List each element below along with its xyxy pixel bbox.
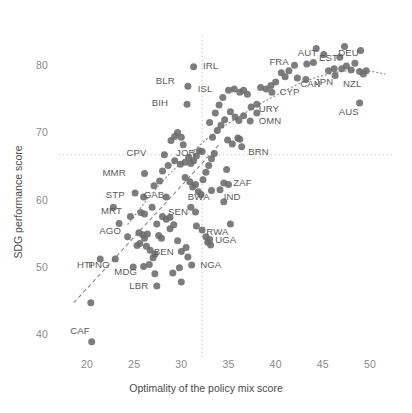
point-label-bih: BIH xyxy=(152,97,168,108)
data-point xyxy=(200,176,207,183)
point-label-mdg: MDG xyxy=(114,266,137,277)
data-point-cpv xyxy=(161,151,168,158)
x-tick-label: 35 xyxy=(209,358,249,370)
data-point xyxy=(87,299,94,306)
x-tick-label: 50 xyxy=(350,358,390,370)
y-tick-label: 60 xyxy=(18,194,48,206)
data-point-blr xyxy=(184,83,191,90)
data-point xyxy=(212,110,219,117)
point-label-irl: IRL xyxy=(203,60,218,71)
point-label-uga: UGA xyxy=(215,234,236,245)
data-point-bih xyxy=(184,101,191,108)
data-point xyxy=(238,143,245,150)
data-point xyxy=(169,270,176,277)
data-point-mdg xyxy=(151,270,158,277)
data-point xyxy=(229,141,236,148)
data-point xyxy=(219,94,226,101)
data-point xyxy=(351,60,358,67)
point-label-omn: OMN xyxy=(259,115,282,126)
data-point xyxy=(348,67,355,74)
data-point xyxy=(159,167,166,174)
data-point-isl xyxy=(225,87,232,94)
point-label-ago: AGO xyxy=(99,225,121,236)
data-point xyxy=(176,264,183,271)
point-label-ben: BEN xyxy=(154,246,174,257)
data-point xyxy=(132,190,139,197)
data-point xyxy=(223,166,230,173)
data-point-irl xyxy=(190,63,197,70)
point-label-isl: ISL xyxy=(198,83,213,94)
data-point-png xyxy=(112,256,119,263)
data-point xyxy=(199,227,206,234)
data-point-ind xyxy=(217,186,224,193)
point-label-png: PNG xyxy=(89,259,110,270)
data-point xyxy=(221,116,228,123)
point-label-deu: DEU xyxy=(338,47,359,58)
data-point-uga xyxy=(206,236,213,243)
point-label-nzl: NZL xyxy=(343,78,361,89)
x-tick-label: 30 xyxy=(161,358,201,370)
data-point-nzl xyxy=(360,71,367,78)
x-tick-label: 45 xyxy=(303,358,343,370)
data-point xyxy=(331,65,338,72)
data-point xyxy=(184,254,191,261)
y-tick-label: 70 xyxy=(18,126,48,138)
data-point-ago xyxy=(135,229,142,236)
point-label-jor: JOR xyxy=(176,147,196,158)
data-point xyxy=(178,278,185,285)
data-point xyxy=(136,240,143,247)
data-point-omn xyxy=(247,118,254,125)
point-label-fra: FRA xyxy=(269,56,289,67)
data-point xyxy=(285,67,292,74)
point-label-blr: BLR xyxy=(156,75,175,86)
data-point-mrt xyxy=(137,209,144,216)
point-label-est: EST xyxy=(319,52,338,63)
data-point xyxy=(291,62,298,69)
data-point-nga xyxy=(188,262,195,269)
y-tick-label: 40 xyxy=(18,328,48,340)
data-point-lbr xyxy=(153,282,160,289)
data-point-cyp xyxy=(268,89,275,96)
data-point-fra xyxy=(303,61,310,68)
data-point xyxy=(127,213,134,220)
point-label-bwa: BWA xyxy=(188,191,210,202)
point-label-stp: STP xyxy=(106,189,125,200)
point-label-brn: BRN xyxy=(248,146,269,157)
point-label-cyp: CYP xyxy=(279,86,299,97)
data-point xyxy=(149,204,156,211)
x-tick-label: 20 xyxy=(67,358,107,370)
data-point-zaf xyxy=(220,180,227,187)
data-point xyxy=(216,102,223,109)
data-point xyxy=(124,233,131,240)
data-point xyxy=(153,221,160,228)
data-point-jor xyxy=(199,148,206,155)
point-label-mmr: MMR xyxy=(102,167,125,178)
data-point xyxy=(310,59,317,66)
data-point-caf xyxy=(88,338,95,345)
point-label-mrt: MRT xyxy=(101,205,122,216)
data-point xyxy=(244,91,251,98)
data-point-sen xyxy=(192,208,199,215)
point-label-ury: URY xyxy=(259,103,279,114)
point-label-aut: AUT xyxy=(298,47,318,58)
y-tick-label: 80 xyxy=(18,59,48,71)
data-point xyxy=(192,181,199,188)
data-point xyxy=(178,134,185,141)
x-axis-title: Optimality of the policy mix score xyxy=(0,382,412,394)
x-tick-label: 25 xyxy=(114,358,154,370)
data-point xyxy=(240,112,247,119)
point-label-gab: GAB xyxy=(144,189,165,200)
point-label-can: CAN xyxy=(300,78,321,89)
point-label-zaf: ZAF xyxy=(233,177,251,188)
data-point xyxy=(193,223,200,230)
point-label-nga: NGA xyxy=(200,259,221,270)
data-point-brn xyxy=(236,136,243,143)
point-label-lbr: LBR xyxy=(129,280,148,291)
y-tick-label: 50 xyxy=(18,261,48,273)
data-point xyxy=(211,150,218,157)
data-point-mmr xyxy=(141,170,148,177)
data-point xyxy=(227,108,234,115)
data-point xyxy=(144,231,151,238)
data-point xyxy=(206,119,213,126)
data-point xyxy=(174,237,181,244)
